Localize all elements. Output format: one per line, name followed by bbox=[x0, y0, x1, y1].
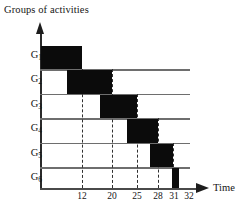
gridline-g1 bbox=[40, 69, 190, 71]
bar-g5 bbox=[150, 144, 173, 168]
xtick-label-31: 31 bbox=[169, 191, 179, 201]
xtick-label-12: 12 bbox=[77, 191, 87, 201]
category-label-g5: G5 bbox=[6, 147, 42, 158]
category-label-g4: G4 bbox=[6, 122, 42, 133]
x-axis-arrow-icon bbox=[196, 183, 209, 193]
category-label-g6-sub: 6 bbox=[38, 175, 42, 184]
category-label-g2: G2 bbox=[6, 73, 42, 84]
y-axis-arrow-icon bbox=[36, 22, 44, 34]
gantt-chart-figure: Groups of activities Time G1 G2 G3 G4 G5… bbox=[0, 0, 249, 209]
bar-g6 bbox=[172, 168, 179, 188]
xtick-label-32: 32 bbox=[184, 191, 194, 201]
x-axis-title: Time bbox=[213, 182, 235, 193]
category-label-g2-sub: 2 bbox=[38, 77, 42, 86]
y-axis-title: Groups of activities bbox=[4, 4, 89, 15]
bar-g4 bbox=[127, 119, 158, 143]
category-label-g3-sub: 3 bbox=[38, 102, 42, 111]
bar-g3 bbox=[100, 95, 137, 119]
category-label-g5-sub: 5 bbox=[38, 151, 42, 160]
xtick-label-28: 28 bbox=[153, 191, 163, 201]
bar-g2 bbox=[67, 70, 113, 94]
xtick-label-25: 25 bbox=[132, 191, 142, 201]
category-label-g4-sub: 4 bbox=[38, 126, 42, 135]
category-label-g6: G6 bbox=[6, 171, 42, 182]
xtick-label-20: 20 bbox=[107, 191, 117, 201]
x-axis-line bbox=[40, 188, 198, 190]
gridline-g3 bbox=[40, 118, 190, 120]
category-label-g1: G1 bbox=[6, 49, 42, 60]
bar-g1 bbox=[41, 46, 82, 70]
gridline-g5 bbox=[40, 167, 190, 169]
category-label-g3: G3 bbox=[6, 98, 42, 109]
